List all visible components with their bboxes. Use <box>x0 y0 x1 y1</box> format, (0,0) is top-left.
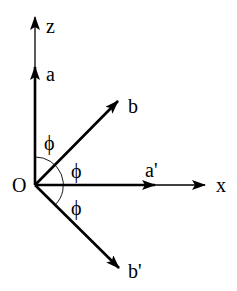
angle-phi-middle: ϕ <box>71 160 82 183</box>
vector-diagram: z a b a' x b' O ϕ ϕ ϕ <box>0 0 237 291</box>
origin-label: O <box>12 174 26 196</box>
vector-a-label: a <box>46 63 55 85</box>
angle-phi-upper: ϕ <box>44 132 55 155</box>
angle-phi-lower: ϕ <box>71 197 82 220</box>
z-axis-label: z <box>46 15 55 37</box>
vector-a-prime-label: a' <box>145 159 157 181</box>
vector-b-label: b <box>128 95 138 117</box>
vector-b-prime-label: b' <box>128 260 142 282</box>
x-axis-label: x <box>216 174 226 196</box>
